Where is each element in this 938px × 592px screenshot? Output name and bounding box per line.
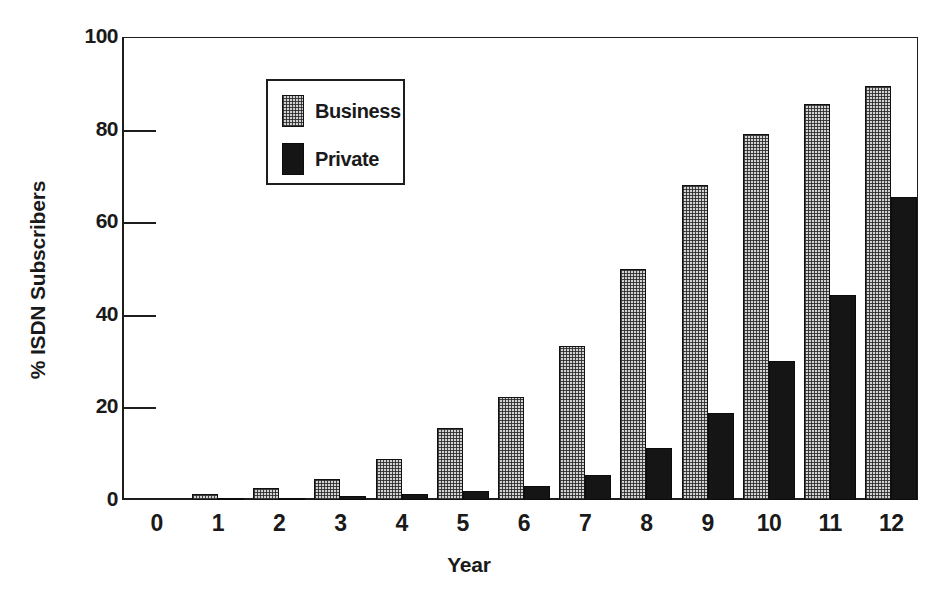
y-tick-mark xyxy=(122,130,156,132)
bar-business-year-4 xyxy=(376,459,402,500)
x-tick-label: 1 xyxy=(212,510,224,537)
y-tick-mark xyxy=(122,407,156,409)
bars-layer xyxy=(122,37,918,500)
bar-private-year-12 xyxy=(891,197,917,500)
x-tick-label: 5 xyxy=(457,510,469,537)
y-tick-label: 60 xyxy=(48,209,118,233)
bar-private-year-7 xyxy=(585,475,611,500)
y-axis-title: % ISDN Subscribers xyxy=(26,150,50,410)
x-tick-label: 0 xyxy=(150,510,162,537)
bar-private-year-9 xyxy=(708,413,734,500)
bar-business-year-3 xyxy=(314,479,340,500)
bar-business-year-1 xyxy=(192,494,218,500)
y-tick-label: 100 xyxy=(48,24,118,48)
bar-private-year-8 xyxy=(646,448,672,500)
bar-private-year-5 xyxy=(463,491,489,500)
bar-business-year-7 xyxy=(559,346,585,500)
legend-swatch-private-icon xyxy=(282,143,304,175)
x-tick-label: 7 xyxy=(579,510,591,537)
bar-business-year-12 xyxy=(865,86,891,500)
bar-private-year-4 xyxy=(402,494,428,500)
legend-label-private: Private xyxy=(315,148,379,171)
bar-business-year-10 xyxy=(743,134,769,500)
x-tick-label: 12 xyxy=(879,510,904,537)
bar-business-year-6 xyxy=(498,397,524,500)
y-tick-mark xyxy=(122,315,156,317)
legend-item-private: Private xyxy=(282,143,379,175)
bar-business-year-5 xyxy=(437,428,463,500)
y-tick-label: 80 xyxy=(48,117,118,141)
bar-business-year-11 xyxy=(804,104,830,500)
legend-label-business: Business xyxy=(315,100,401,123)
x-tick-label: 3 xyxy=(334,510,346,537)
x-axis-title: Year xyxy=(0,553,938,577)
y-tick-mark xyxy=(122,222,156,224)
x-tick-label: 11 xyxy=(818,510,841,537)
bar-private-year-2 xyxy=(279,498,305,500)
y-tick-label: 20 xyxy=(48,394,118,418)
y-tick-label: 40 xyxy=(48,302,118,326)
bar-business-year-8 xyxy=(620,269,646,501)
y-tick-label: 0 xyxy=(48,487,118,511)
bar-private-year-10 xyxy=(769,361,795,500)
legend-swatch-business-icon xyxy=(282,95,304,127)
bar-private-year-3 xyxy=(340,496,366,500)
x-tick-label: 9 xyxy=(702,510,714,537)
bar-private-year-1 xyxy=(218,498,244,500)
legend: Business Private xyxy=(266,79,405,185)
bar-business-year-9 xyxy=(682,185,708,500)
bar-private-year-6 xyxy=(524,486,550,500)
bar-business-year-2 xyxy=(253,488,279,500)
isdn-subscribers-bar-chart: 020406080100 0123456789101112 % ISDN Sub… xyxy=(0,0,938,592)
legend-item-business: Business xyxy=(282,95,401,127)
x-tick-label: 10 xyxy=(757,510,782,537)
x-tick-label: 8 xyxy=(640,510,652,537)
x-tick-label: 4 xyxy=(395,510,407,537)
x-tick-label: 2 xyxy=(273,510,285,537)
x-tick-label: 6 xyxy=(518,510,530,537)
bar-private-year-11 xyxy=(830,295,856,500)
